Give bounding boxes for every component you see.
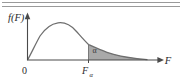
y-axis-group: [25, 13, 31, 61]
figure-canvas: f(F) F 0 F α α: [0, 0, 182, 81]
alpha-tail-shading: [89, 45, 148, 61]
y-axis-label: f(F): [8, 12, 25, 24]
origin-label: 0: [22, 65, 27, 76]
tail-region-group: [89, 45, 148, 61]
density-curve-path: [28, 23, 148, 60]
y-axis-arrowhead: [25, 13, 31, 20]
top-rules-group: [2, 3, 180, 7]
f-distribution-figure: f(F) F 0 F α α: [0, 0, 182, 81]
critical-value-base: F: [81, 65, 89, 76]
critical-value-subscript: α: [90, 71, 94, 78]
critical-value-label: F α: [81, 65, 94, 78]
x-axis-arrowhead: [157, 57, 164, 63]
x-axis-label: F: [164, 55, 172, 66]
